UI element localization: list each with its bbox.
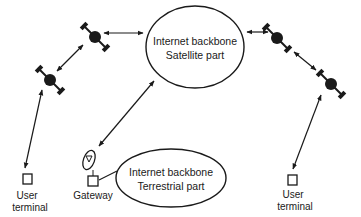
user-terminal-left-node: User terminal [12,174,48,213]
gateway-box-icon [88,176,98,186]
backbone-satellite-node: Internet backbone Satellite part [146,6,244,88]
satellite-icon-left-upper [80,22,110,52]
satellite-icon-right-lower [316,69,346,99]
satellite-dish-icon [80,149,97,172]
backbone-terrestrial-line1: Internet backbone [129,166,213,178]
user-terminal-right-line1: User [282,189,304,200]
link-sat-rl-user-right [293,95,321,169]
terminal-box-icon [288,175,297,185]
satellite-icon-right-upper [262,23,292,53]
user-terminal-right-node: User terminal [277,175,313,212]
link-sat-ru-sat-rl [294,52,316,70]
user-terminal-left-line1: User [16,190,38,201]
backbone-terrestrial-line2: Terrestrial part [137,180,204,192]
link-gateway-terrestrial [99,171,117,180]
backbone-satellite-line1: Internet backbone [153,35,237,47]
gateway-node: Gateway [73,149,112,201]
terminal-box-icon [23,174,32,184]
satellite-icon-left-lower [35,65,65,95]
link-sat-ll-user-left [25,90,42,168]
link-backbone-gateway [99,81,154,146]
backbone-satellite-line2: Satellite part [166,49,224,61]
user-terminal-left-line2: terminal [12,202,48,213]
gateway-label: Gateway [73,190,112,201]
network-diagram: Internet backbone Satellite part Interne… [0,0,361,217]
backbone-terrestrial-node: Internet backbone Terrestrial part [116,149,226,207]
user-terminal-right-line2: terminal [277,201,313,212]
link-sat-lu-sat-ll [57,45,83,71]
